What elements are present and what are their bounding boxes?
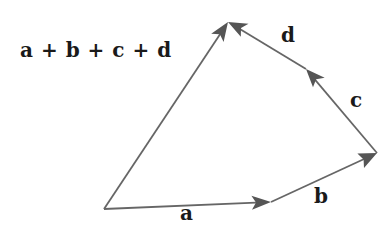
label-vector-sum: a + b + c + d: [20, 40, 172, 60]
label-vector-a: a: [180, 203, 193, 223]
vector-c-shaft: [312, 76, 377, 153]
label-vector-b: b: [314, 186, 328, 206]
arrowhead-icon: [228, 22, 249, 37]
label-vector-d: d: [281, 25, 295, 45]
vector-d-shaft: [236, 27, 306, 69]
arrowhead-icon: [211, 22, 228, 42]
arrowhead-icon: [306, 69, 325, 87]
vector-polygon-svg: [0, 0, 392, 242]
label-vector-c: c: [350, 90, 362, 110]
vector-c: [306, 69, 377, 153]
